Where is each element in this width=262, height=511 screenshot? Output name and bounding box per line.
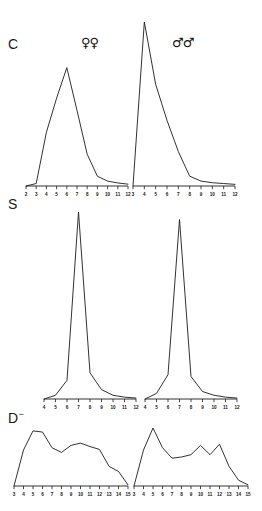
x-axis-tick-label: 12 [234, 405, 240, 410]
x-axis-tick-label: 12 [232, 192, 238, 197]
x-axis-tick-label: 3 [13, 492, 16, 497]
x-axis-tick-label: 5 [155, 405, 158, 410]
x-axis-tick-label: 12 [125, 192, 131, 197]
x-axis-tick-label: 10 [78, 492, 84, 497]
x-axis-tick-label: 12 [97, 492, 103, 497]
x-axis-tick-label: 4 [43, 405, 46, 410]
x-axis-tick-label: 13 [226, 492, 232, 497]
x-axis-tick-label: 4 [22, 492, 25, 497]
x-axis-tick-label: 11 [223, 405, 228, 410]
x-axis-tick-label: 4 [45, 192, 48, 197]
x-axis-tick-label: 6 [66, 192, 69, 197]
row-label-c: C [8, 36, 18, 51]
x-axis-tick-label: 8 [89, 405, 92, 410]
x-axis-tick-label: 8 [190, 405, 193, 410]
x-axis-tick-label: 14 [116, 492, 122, 497]
x-axis-tick-label: 8 [60, 492, 63, 497]
distribution-curve [26, 68, 128, 186]
distribution-curve [133, 22, 235, 186]
x-axis-tick-label: 4 [142, 492, 145, 497]
x-axis-tick-label: 10 [110, 405, 116, 410]
x-axis-tick-label: 7 [76, 192, 79, 197]
x-axis-tick-label: 4 [143, 192, 146, 197]
x-axis-tick-label: 14 [236, 492, 242, 497]
x-axis-tick-label: 7 [177, 192, 180, 197]
x-axis-tick-label: 6 [166, 192, 169, 197]
x-axis-tick-label: 10 [211, 405, 217, 410]
row-label-d-minus: D− [8, 410, 24, 425]
x-axis-tick-label: 5 [54, 405, 57, 410]
x-axis-tick-label: 10 [105, 192, 111, 197]
x-axis-tick-label: 10 [198, 492, 204, 497]
row-label-d-superscript: − [18, 409, 24, 419]
x-axis-tick-label: 6 [41, 492, 44, 497]
x-axis-tick-label: 11 [208, 492, 213, 497]
x-axis-tick-label: 11 [115, 192, 120, 197]
x-axis-tick-label: 9 [70, 492, 73, 497]
row-label-s: S [8, 196, 18, 211]
x-axis-tick-label: 5 [152, 492, 155, 497]
figure-root: C S D− ♀♀ ♂♂ 234567891011123456789101112… [0, 0, 262, 511]
x-axis-tick-label: 9 [200, 192, 203, 197]
chart-panel-d-females: 3456789101112131415 [14, 426, 128, 500]
x-axis-tick-label: 8 [86, 192, 89, 197]
distribution-curve [14, 431, 128, 486]
distribution-curve [134, 428, 248, 486]
x-axis-tick-label: 9 [100, 405, 103, 410]
chart-panel-s-males: 456789101112 [145, 210, 237, 413]
x-axis-tick-label: 15 [125, 492, 131, 497]
x-axis-tick-label: 5 [32, 492, 35, 497]
distribution-curve [44, 212, 136, 399]
chart-panel-d-males: 3456789101112131415 [134, 426, 248, 500]
x-axis-tick-label: 6 [167, 405, 170, 410]
x-axis-tick-label: 7 [171, 492, 174, 497]
x-axis-tick-label: 5 [154, 192, 157, 197]
x-axis-tick-label: 7 [51, 492, 54, 497]
row-label-d-text: D [8, 410, 18, 426]
x-axis-tick-label: 12 [217, 492, 223, 497]
x-axis-tick-label: 4 [144, 405, 147, 410]
x-axis-tick-label: 3 [35, 192, 38, 197]
chart-panel-c-males: 3456789101112 [133, 20, 235, 200]
x-axis-tick-label: 11 [122, 405, 127, 410]
x-axis-tick-label: 15 [245, 492, 251, 497]
x-axis-tick-label: 9 [190, 492, 193, 497]
x-axis-tick-label: 12 [133, 405, 139, 410]
x-axis-tick-label: 3 [133, 492, 136, 497]
chart-panel-s-females: 456789101112 [44, 210, 136, 413]
distribution-curve [145, 219, 237, 399]
row-label-c-text: C [8, 36, 18, 52]
chart-panel-c-females: 23456789101112 [26, 62, 128, 200]
x-axis-tick-label: 8 [188, 192, 191, 197]
x-axis-tick-label: 9 [96, 192, 99, 197]
x-axis-tick-label: 7 [77, 405, 80, 410]
row-label-s-text: S [8, 196, 18, 212]
x-axis-tick-label: 10 [210, 192, 216, 197]
x-axis-tick-label: 6 [66, 405, 69, 410]
x-axis-tick-label: 9 [201, 405, 204, 410]
x-axis-tick-label: 11 [88, 492, 93, 497]
x-axis-tick-label: 6 [161, 492, 164, 497]
x-axis-tick-label: 5 [55, 192, 58, 197]
x-axis-tick-label: 11 [221, 192, 226, 197]
female-symbol: ♀♀ [81, 36, 98, 49]
x-axis-tick-label: 13 [106, 492, 112, 497]
x-axis-tick-label: 2 [25, 192, 28, 197]
x-axis-tick-label: 3 [132, 192, 135, 197]
x-axis-tick-label: 7 [178, 405, 181, 410]
x-axis-tick-label: 8 [180, 492, 183, 497]
